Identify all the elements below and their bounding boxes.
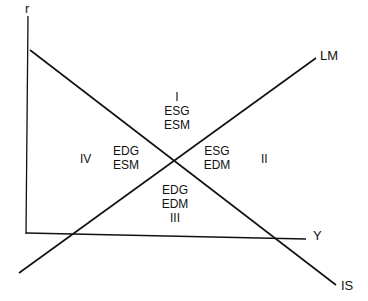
region-i-goods: ESG bbox=[162, 104, 192, 118]
region-ii-numeral: II bbox=[261, 152, 268, 166]
is-curve-label: IS bbox=[341, 279, 353, 293]
region-iii-numeral: III bbox=[158, 211, 192, 225]
region-iv: EDG ESM bbox=[110, 144, 142, 172]
region-ii: ESG EDM bbox=[201, 144, 233, 172]
y-axis-label: Y bbox=[313, 229, 322, 243]
region-iii-goods: EDG bbox=[158, 183, 192, 197]
lm-curve-label: LM bbox=[320, 49, 338, 63]
r-axis-label: r bbox=[25, 2, 29, 16]
region-ii-money: EDM bbox=[201, 158, 233, 172]
islm-diagram bbox=[0, 0, 368, 301]
is-curve bbox=[30, 50, 336, 285]
region-i: I ESG ESM bbox=[162, 90, 192, 132]
region-iv-goods: EDG bbox=[110, 144, 142, 158]
r-axis bbox=[26, 16, 28, 234]
region-ii-goods: ESG bbox=[201, 144, 233, 158]
region-iv-money: ESM bbox=[110, 158, 142, 172]
region-i-numeral: I bbox=[162, 90, 192, 104]
region-iv-numeral: IV bbox=[80, 152, 91, 166]
region-iii: EDG EDM III bbox=[158, 183, 192, 225]
region-i-money: ESM bbox=[162, 118, 192, 132]
region-iii-money: EDM bbox=[158, 197, 192, 211]
